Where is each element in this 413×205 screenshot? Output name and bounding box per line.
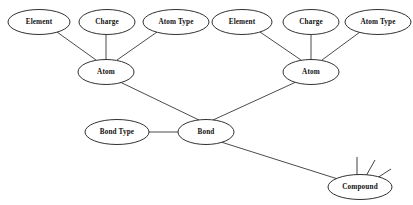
node-bondtype[interactable]: Bond Type [85, 120, 149, 145]
node-label-element-left: Element [26, 18, 53, 26]
edges-layer [57, 32, 360, 180]
node-element-left[interactable]: Element [8, 10, 70, 35]
node-label-charge-right: Charge [299, 18, 323, 26]
edge-atom-right-to-bond [213, 82, 296, 120]
node-atom-left[interactable]: Atom [78, 60, 134, 85]
node-label-atomtype-left: Atom Type [158, 18, 193, 26]
node-label-atomtype-right: Atom Type [360, 18, 395, 26]
edge-atomtype-left-to-atom-left [117, 32, 157, 60]
node-label-atom-left: Atom [97, 68, 115, 76]
node-atomtype-left[interactable]: Atom Type [143, 10, 209, 35]
node-label-element-right: Element [229, 18, 256, 26]
node-atomtype-right[interactable]: Atom Type [345, 10, 411, 35]
node-charge-left[interactable]: Charge [79, 10, 135, 35]
node-label-compound: Compound [342, 183, 378, 191]
node-charge-right[interactable]: Charge [283, 10, 339, 35]
edge-atom-left-to-bond [120, 82, 199, 120]
edge-bond-to-compound [221, 142, 341, 180]
node-bond[interactable]: Bond [178, 120, 234, 145]
node-atom-right[interactable]: Atom [283, 60, 339, 85]
node-label-bond: Bond [198, 128, 215, 136]
er-diagram-canvas: ElementChargeAtom TypeElementChargeAtom … [0, 0, 413, 205]
edge-element-right-to-atom-right [260, 32, 301, 60]
nodes-layer: ElementChargeAtom TypeElementChargeAtom … [8, 10, 411, 200]
node-label-bondtype: Bond Type [100, 128, 134, 136]
node-element-right[interactable]: Element [212, 10, 272, 35]
node-label-atom-right: Atom [302, 68, 320, 76]
edge-element-left-to-atom-left [57, 32, 96, 60]
node-label-charge-left: Charge [95, 18, 119, 26]
node-compound[interactable]: Compound [328, 175, 392, 200]
edge-atomtype-right-to-atom-right [322, 32, 360, 60]
diagram-svg: ElementChargeAtom TypeElementChargeAtom … [0, 0, 413, 205]
compound-spark-2 [366, 160, 375, 176]
